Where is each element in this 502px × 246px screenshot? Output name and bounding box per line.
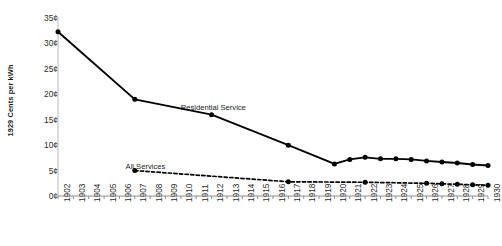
data-point-marker [363,180,368,185]
series-label-1: All Services [126,162,166,171]
data-point-marker [409,157,414,162]
data-point-marker [132,97,137,102]
data-point-marker [286,179,291,184]
data-point-marker [347,157,352,162]
data-point-marker [439,181,444,186]
series-label-0: Residential Service [181,103,246,112]
data-point-marker [56,29,61,34]
data-point-marker [486,183,491,188]
data-point-marker [470,162,475,167]
data-point-marker [332,161,337,166]
data-point-marker [378,156,383,161]
data-point-marker [455,160,460,165]
data-point-marker [424,181,429,186]
data-point-marker [455,182,460,187]
data-point-marker [286,143,291,148]
data-point-marker [209,112,214,117]
data-point-marker [363,155,368,160]
data-point-marker [439,159,444,164]
data-point-marker [424,158,429,163]
series-line-1 [135,171,488,186]
series-line-0 [58,32,488,166]
data-point-marker [470,182,475,187]
data-point-marker [393,156,398,161]
data-point-marker [486,163,491,168]
